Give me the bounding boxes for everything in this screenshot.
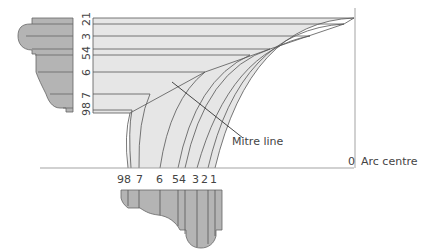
svg-text:7: 7 [136, 173, 143, 186]
svg-text:2: 2 [201, 173, 208, 186]
left-profile-moulding [18, 18, 73, 112]
mitre-line-label: Mitre line [232, 135, 283, 148]
moulding-arc-diagram: Mitre line 0 Arc centre 21 3 54 6 7 98 9… [0, 0, 430, 252]
svg-text:54: 54 [172, 173, 186, 186]
svg-text:7: 7 [80, 92, 93, 99]
vertical-labels: 21 3 54 6 7 98 [80, 12, 93, 116]
arc-centre-zero: 0 [348, 155, 355, 168]
svg-text:98: 98 [80, 102, 93, 116]
fan-region [93, 18, 354, 168]
svg-text:6: 6 [80, 69, 93, 76]
svg-text:1: 1 [210, 173, 217, 186]
svg-text:6: 6 [156, 173, 163, 186]
baseline-labels: 98 7 6 54 3 2 1 [117, 173, 217, 186]
svg-text:3: 3 [192, 173, 199, 186]
svg-text:54: 54 [80, 46, 93, 60]
arc-centre-label: Arc centre [361, 155, 418, 168]
svg-text:3: 3 [80, 33, 93, 40]
svg-text:98: 98 [117, 173, 131, 186]
bottom-profile-moulding [121, 190, 222, 248]
svg-text:21: 21 [80, 12, 93, 26]
